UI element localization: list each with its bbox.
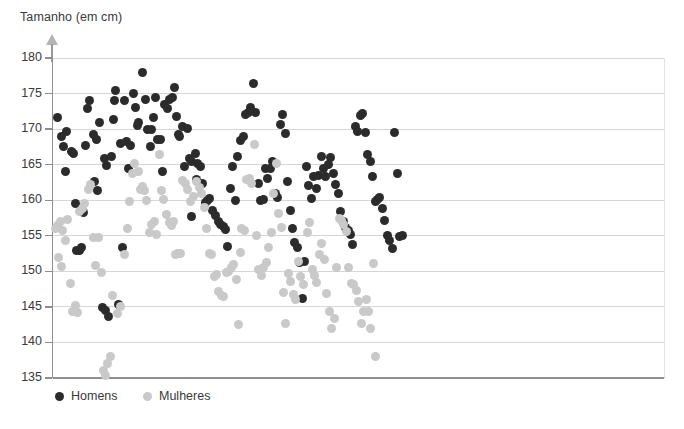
data-point	[109, 115, 118, 124]
y-tick-mark-160	[45, 200, 52, 201]
data-point	[330, 314, 339, 323]
data-point	[61, 167, 70, 176]
data-point	[307, 194, 316, 203]
data-point	[62, 127, 71, 136]
data-point	[102, 161, 111, 170]
data-point	[267, 228, 276, 237]
data-point	[158, 167, 167, 176]
data-point	[390, 128, 399, 137]
data-point	[277, 223, 286, 232]
data-point	[320, 255, 329, 264]
data-point	[272, 159, 281, 168]
data-point	[286, 206, 295, 215]
gridline-145	[53, 306, 664, 307]
gridline-165	[53, 164, 664, 165]
data-point	[123, 224, 132, 233]
data-point	[234, 320, 243, 329]
data-point	[146, 142, 155, 151]
data-point	[83, 104, 92, 113]
data-point	[331, 180, 340, 189]
data-point	[364, 307, 373, 316]
data-point	[362, 295, 371, 304]
data-point	[202, 224, 211, 233]
data-point	[183, 124, 192, 133]
data-point	[168, 93, 177, 102]
data-point	[147, 125, 156, 134]
data-point	[219, 292, 228, 301]
data-point	[366, 157, 375, 166]
gridline-180	[53, 58, 664, 59]
data-point	[85, 96, 94, 105]
data-point	[163, 104, 172, 113]
data-point	[134, 167, 143, 176]
y-tick-label-140: 140	[8, 334, 42, 348]
legend-label: Mulheres	[159, 389, 210, 403]
y-tick-label-135: 135	[8, 370, 42, 384]
data-point	[388, 244, 397, 253]
data-point	[131, 103, 140, 112]
data-point	[366, 324, 375, 333]
data-point	[57, 262, 66, 271]
data-point	[95, 118, 104, 127]
data-point	[236, 248, 245, 257]
legend-label: Homens	[71, 389, 118, 403]
y-tick-mark-140	[45, 342, 52, 343]
y-tick-mark-180	[45, 57, 52, 58]
data-point	[348, 240, 357, 249]
y-tick-label-170: 170	[8, 121, 42, 135]
data-point	[155, 150, 164, 159]
data-point	[294, 257, 303, 266]
data-point	[252, 231, 261, 240]
data-point	[299, 280, 308, 289]
y-tick-mark-170	[45, 128, 52, 129]
gridline-135	[53, 378, 664, 379]
data-point	[141, 95, 150, 104]
data-point	[93, 186, 102, 195]
data-point	[398, 231, 407, 240]
y-tick-mark-135	[45, 377, 52, 378]
data-point	[150, 217, 159, 226]
legend-item-mulheres[interactable]: Mulheres	[143, 389, 210, 403]
data-point	[369, 259, 378, 268]
data-point	[371, 352, 380, 361]
data-point	[134, 118, 143, 127]
data-point	[262, 258, 271, 267]
data-point	[247, 179, 256, 188]
y-tick-label-145: 145	[8, 299, 42, 313]
data-point	[110, 96, 119, 105]
data-point	[229, 260, 238, 269]
data-point	[196, 162, 205, 171]
data-point	[81, 141, 90, 150]
data-point	[151, 93, 160, 102]
data-point	[191, 149, 200, 158]
legend-item-homens[interactable]: Homens	[55, 389, 118, 403]
data-point	[240, 226, 249, 235]
data-point	[175, 132, 184, 141]
data-point	[92, 135, 101, 144]
y-tick-label-155: 155	[8, 228, 42, 242]
data-point	[200, 203, 209, 212]
scatter-chart: Tamanho (em cm) 135140145150155160165170…	[0, 0, 684, 429]
data-point	[169, 217, 178, 226]
data-point	[223, 242, 232, 251]
data-point	[197, 189, 206, 198]
data-point	[357, 319, 366, 328]
data-point	[97, 268, 106, 277]
data-point	[107, 152, 116, 161]
y-tick-mark-165	[45, 164, 52, 165]
data-point	[259, 195, 268, 204]
data-point	[257, 271, 266, 280]
plot-area	[52, 58, 665, 378]
data-point	[317, 152, 326, 161]
data-point	[66, 279, 75, 288]
data-point	[352, 286, 361, 295]
legend-marker-icon	[143, 392, 152, 401]
data-point	[228, 162, 237, 171]
y-tick-label-165: 165	[8, 157, 42, 171]
data-point	[317, 239, 326, 248]
data-point	[226, 184, 235, 193]
y-tick-mark-155	[45, 235, 52, 236]
data-point	[312, 184, 321, 193]
data-point	[140, 186, 149, 195]
y-tick-label-175: 175	[8, 86, 42, 100]
